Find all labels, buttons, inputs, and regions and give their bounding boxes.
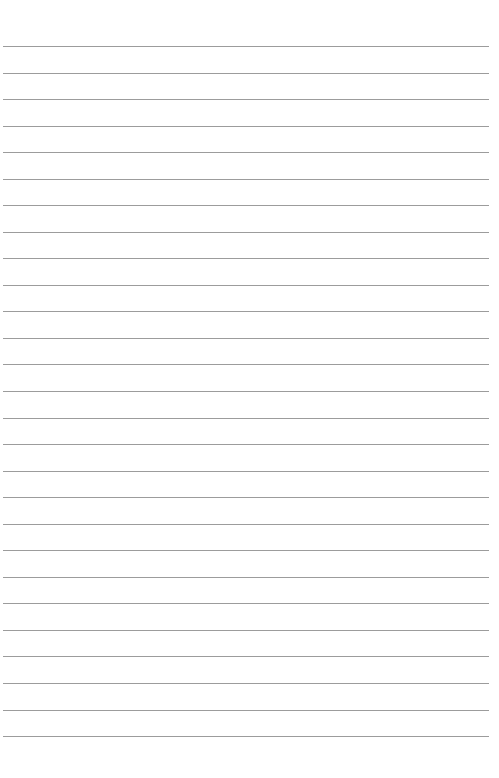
lined-paper-page <box>0 0 499 778</box>
ruled-line <box>3 444 489 445</box>
ruled-line <box>3 73 489 74</box>
ruled-line <box>3 205 489 206</box>
ruled-line <box>3 471 489 472</box>
ruled-line <box>3 418 489 419</box>
ruled-line <box>3 497 489 498</box>
ruled-line <box>3 152 489 153</box>
ruled-line <box>3 550 489 551</box>
ruled-line <box>3 285 489 286</box>
ruled-line <box>3 338 489 339</box>
ruled-line <box>3 99 489 100</box>
ruled-line <box>3 391 489 392</box>
ruled-line <box>3 364 489 365</box>
ruled-line <box>3 736 489 737</box>
ruled-line <box>3 577 489 578</box>
ruled-line <box>3 683 489 684</box>
ruled-line <box>3 524 489 525</box>
ruled-line <box>3 630 489 631</box>
ruled-line <box>3 179 489 180</box>
ruled-line <box>3 126 489 127</box>
ruled-line <box>3 258 489 259</box>
ruled-line <box>3 46 489 47</box>
ruled-line <box>3 656 489 657</box>
ruled-line <box>3 603 489 604</box>
ruled-line <box>3 710 489 711</box>
ruled-line <box>3 311 489 312</box>
ruled-line <box>3 232 489 233</box>
